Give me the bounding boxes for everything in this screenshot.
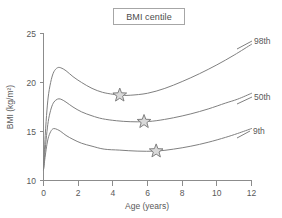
x-axis-ticks	[44, 181, 252, 186]
marker-98th-icon	[113, 88, 127, 101]
x-tick-label-4: 4	[110, 188, 115, 198]
curve-50th	[44, 93, 252, 169]
y-tick-label-20: 20	[27, 78, 37, 88]
x-tick-label-2: 2	[76, 188, 81, 198]
y-axis-title: BMI (kg/m²)	[5, 85, 15, 130]
series-label-98th: 98th	[254, 36, 271, 46]
series-labels: 98th 50th 9th	[253, 36, 271, 136]
marker-9th-icon	[149, 144, 163, 157]
leader-line-9th	[237, 131, 250, 138]
centile-curves	[44, 44, 252, 169]
y-axis-ticks	[40, 34, 44, 181]
y-tick-label-10: 10	[27, 176, 37, 186]
y-tick-label-15: 15	[27, 127, 37, 137]
x-axis-tick-labels: 0 2 4 6 8 10 12	[41, 188, 256, 198]
bmi-centile-chart: BMI centile 25 20 15 10	[0, 0, 282, 218]
x-tick-label-0: 0	[41, 188, 46, 198]
x-tick-label-8: 8	[180, 188, 185, 198]
x-axis-title: Age (years)	[125, 201, 169, 211]
series-label-9th: 9th	[253, 126, 265, 136]
marker-50th-icon	[137, 115, 151, 128]
y-tick-label-25: 25	[27, 29, 37, 39]
series-leader-lines	[237, 41, 252, 138]
x-tick-label-6: 6	[145, 188, 150, 198]
x-tick-label-12: 12	[247, 188, 257, 198]
curve-9th	[44, 129, 252, 170]
y-axis-tick-labels: 25 20 15 10	[27, 29, 37, 186]
centile-markers	[113, 88, 163, 157]
series-label-50th: 50th	[254, 92, 271, 102]
plot-area: 25 20 15 10 0 2 4 6 8 10 12 Age (years) …	[0, 0, 282, 218]
x-tick-label-10: 10	[212, 188, 222, 198]
